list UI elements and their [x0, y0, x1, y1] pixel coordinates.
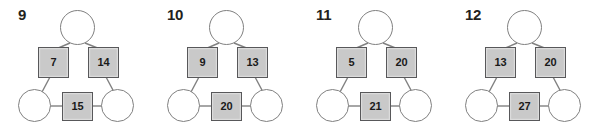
- puzzle-panel: 10 9 13 20: [149, 0, 298, 133]
- triangle-diagram: 9 13 20: [149, 0, 298, 133]
- edge-box-top-right: 20: [386, 47, 417, 78]
- puzzle-panel: 12 13 20 27: [447, 0, 596, 133]
- edge-box-bottom: 27: [509, 92, 540, 121]
- node-circle-bottom-left[interactable]: [18, 89, 51, 122]
- node-circle-bottom-left[interactable]: [465, 89, 498, 122]
- triangle-diagram: 13 20 27: [447, 0, 596, 133]
- edge-box-value: 13: [495, 57, 507, 68]
- edge-box-top-left: 5: [336, 47, 367, 78]
- edge-box-value: 20: [545, 57, 557, 68]
- edge-box-value: 5: [349, 57, 355, 68]
- edge-box-top-left: 9: [187, 47, 218, 78]
- edge-box-value: 27: [519, 101, 531, 112]
- edge-box-value: 13: [247, 57, 259, 68]
- edge-box-top-right: 13: [237, 47, 268, 78]
- edge-box-value: 15: [72, 101, 84, 112]
- triangle-diagram: 7 14 15: [0, 0, 149, 133]
- puzzle-panel: 11 5 20 21: [298, 0, 447, 133]
- edge-box-value: 20: [221, 101, 233, 112]
- edge-box-bottom: 20: [211, 92, 242, 121]
- node-circle-bottom-right[interactable]: [548, 89, 581, 122]
- triangle-diagram: 5 20 21: [298, 0, 447, 133]
- edge-box-top-right: 14: [88, 47, 119, 78]
- node-circle-top[interactable]: [60, 10, 95, 45]
- node-circle-bottom-right[interactable]: [399, 89, 432, 122]
- node-circle-bottom-left[interactable]: [316, 89, 349, 122]
- edge-box-value: 21: [370, 101, 382, 112]
- node-circle-top[interactable]: [507, 10, 542, 45]
- edge-box-value: 7: [51, 57, 57, 68]
- edge-box-top-left: 13: [485, 47, 516, 78]
- puzzle-panel: 9 7 14 15: [0, 0, 149, 133]
- edge-box-top-right: 20: [535, 47, 566, 78]
- edge-box-bottom: 15: [62, 92, 93, 121]
- edge-box-top-left: 7: [38, 47, 69, 78]
- node-circle-bottom-right[interactable]: [101, 89, 134, 122]
- edge-box-bottom: 21: [360, 92, 391, 121]
- worksheet-canvas: 9 7 14 15 10: [0, 0, 596, 133]
- node-circle-top[interactable]: [358, 10, 393, 45]
- node-circle-bottom-left[interactable]: [167, 89, 200, 122]
- edge-box-value: 9: [200, 57, 206, 68]
- node-circle-top[interactable]: [209, 10, 244, 45]
- edge-box-value: 14: [98, 57, 110, 68]
- edge-box-value: 20: [396, 57, 408, 68]
- node-circle-bottom-right[interactable]: [250, 89, 283, 122]
